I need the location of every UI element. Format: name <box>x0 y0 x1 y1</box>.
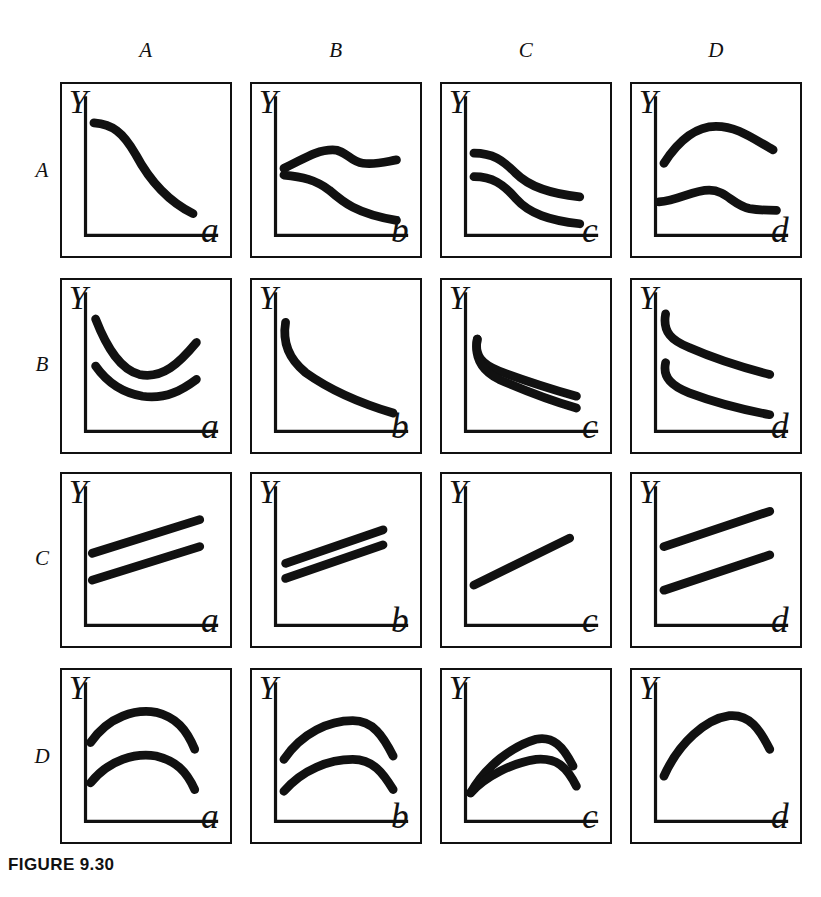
curve-1 <box>284 721 393 760</box>
curve-1 <box>285 322 393 413</box>
panel-A-c: Y c <box>440 82 612 258</box>
y-axis-label: Y <box>69 84 91 120</box>
panel-B-b: Y b <box>250 278 422 454</box>
x-axis-label: d <box>771 601 789 640</box>
y-axis-label: Y <box>69 670 91 706</box>
y-axis-label: Y <box>259 84 281 120</box>
curve-1 <box>96 319 197 375</box>
y-axis-label: Y <box>639 670 661 706</box>
x-axis-label: a <box>201 797 219 836</box>
x-axis-label: c <box>582 797 598 836</box>
y-axis-label: Y <box>639 280 661 316</box>
curve-1 <box>284 150 397 168</box>
row-label-3: C <box>22 546 62 571</box>
x-axis-label: d <box>771 797 789 836</box>
curve-1 <box>664 126 773 163</box>
figure-9-30: A B C D A B C D Y a Y b <box>0 0 821 897</box>
y-axis-label: Y <box>639 84 661 120</box>
curve-2 <box>91 755 195 789</box>
x-axis-label: a <box>201 211 219 250</box>
column-header-4: D <box>686 38 746 63</box>
column-header-label: D <box>708 38 724 62</box>
column-header-2: B <box>306 38 366 63</box>
y-axis-label: Y <box>69 474 91 510</box>
x-axis-label: c <box>582 407 598 446</box>
column-header-1: A <box>116 38 176 63</box>
panel-D-b: Y b <box>250 668 422 844</box>
panel-A-d: Y d <box>630 82 802 258</box>
panel-C-c: Y c <box>440 472 612 648</box>
panel-C-b: Y b <box>250 472 422 648</box>
row-label-2: B <box>22 352 62 377</box>
curve-1 <box>91 712 195 750</box>
curve-2 <box>471 759 577 793</box>
y-axis-label: Y <box>449 474 471 510</box>
curve-1 <box>664 511 770 546</box>
panel-D-d: Y d <box>630 668 802 844</box>
row-label-text: A <box>36 158 49 182</box>
x-axis-label: b <box>391 601 409 640</box>
column-header-label: C <box>519 38 534 62</box>
x-axis-label: c <box>582 601 598 640</box>
y-axis-label: Y <box>639 474 661 510</box>
column-header-label: A <box>139 38 152 62</box>
curve-1 <box>94 123 193 214</box>
y-axis-label: Y <box>69 280 91 316</box>
curve-1 <box>664 716 770 777</box>
curve-2 <box>477 339 577 408</box>
y-axis-label: Y <box>449 84 471 120</box>
panel-D-c: Y c <box>440 668 612 844</box>
x-axis-label: a <box>201 601 219 640</box>
y-axis-label: Y <box>449 670 471 706</box>
x-axis-label: c <box>582 211 598 250</box>
curve-2 <box>284 175 397 220</box>
y-axis-label: Y <box>449 280 471 316</box>
curve-2 <box>659 190 777 210</box>
y-axis-label: Y <box>259 280 281 316</box>
row-label-text: D <box>34 744 49 768</box>
panel-D-a: Y a <box>60 668 232 844</box>
panel-A-b: Y b <box>250 82 422 258</box>
curve-1 <box>665 314 770 374</box>
panel-A-a: Y a <box>60 82 232 258</box>
row-label-text: B <box>36 352 49 376</box>
row-label-1: A <box>22 158 62 183</box>
x-axis-label: d <box>771 211 789 250</box>
row-label-text: C <box>35 546 49 570</box>
curve-2 <box>284 759 393 791</box>
column-header-label: B <box>329 38 342 62</box>
figure-caption: FIGURE 9.30 <box>8 855 114 875</box>
panel-B-d: Y d <box>630 278 802 454</box>
row-label-4: D <box>22 744 62 769</box>
curve-2 <box>96 366 197 397</box>
y-axis-label: Y <box>259 474 281 510</box>
curve-2 <box>664 555 770 590</box>
x-axis-label: b <box>391 797 409 836</box>
panel-C-a: Y a <box>60 472 232 648</box>
panel-B-a: Y a <box>60 278 232 454</box>
panel-C-d: Y d <box>630 472 802 648</box>
column-header-3: C <box>496 38 556 63</box>
panel-B-c: Y c <box>440 278 612 454</box>
curve-1 <box>474 538 570 585</box>
y-axis-label: Y <box>259 670 281 706</box>
x-axis-label: a <box>201 407 219 446</box>
